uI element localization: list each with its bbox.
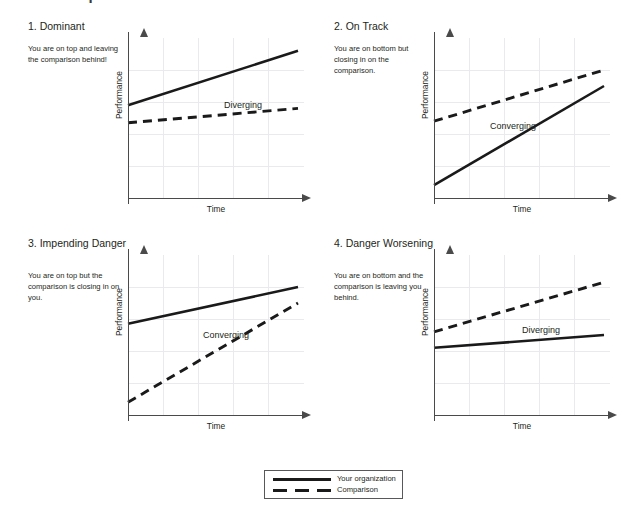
chart-annotation: Diverging (224, 100, 262, 110)
y-axis (128, 249, 129, 421)
panel-description: You are on bottom but closing in on the … (334, 44, 430, 76)
page-title: Four Comparison Situations (16, 0, 223, 3)
panel-danger-worsening: 4. Danger Worsening You are on bottom an… (320, 237, 625, 452)
y-axis-label: Performance (420, 52, 430, 138)
series-comparison (434, 282, 604, 332)
y-axis (128, 32, 129, 204)
panel-title: 3. Impending Danger (28, 237, 126, 249)
legend-label: Comparison (337, 484, 378, 496)
x-axis-arrow-icon (302, 194, 311, 202)
series-comparison (128, 108, 298, 122)
x-axis-arrow-icon (302, 411, 311, 419)
plot-area (434, 38, 610, 198)
chart-annotation: Converging (490, 121, 536, 131)
series-your-organization (434, 86, 604, 185)
chart-annotation: Diverging (522, 325, 560, 335)
series-lines (434, 255, 610, 415)
legend-solid-line-icon (273, 478, 331, 481)
panel-title: 2. On Track (334, 20, 388, 32)
series-your-organization (434, 335, 604, 348)
panel-impending-danger: 3. Impending Danger You are on top but t… (14, 237, 319, 452)
y-axis-label: Performance (420, 269, 430, 355)
panel-title: 1. Dominant (28, 20, 85, 32)
chart-on-track: Performance Time Converging (418, 32, 618, 227)
panel-on-track: 2. On Track You are on bottom but closin… (320, 20, 625, 235)
series-lines (434, 38, 610, 198)
panel-description: You are on bottom and the comparison is … (334, 271, 430, 303)
x-axis-label: Time (434, 204, 610, 214)
panel-description: You are on top and leaving the compariso… (28, 44, 124, 66)
y-axis-label: Performance (114, 52, 124, 138)
y-axis (434, 32, 435, 204)
x-axis (434, 198, 610, 199)
series-your-organization (128, 51, 298, 105)
legend-dashed-line-icon (273, 489, 331, 492)
y-axis (434, 249, 435, 421)
y-axis-arrow-icon (140, 28, 148, 37)
plot-area (128, 38, 304, 198)
x-axis (128, 415, 304, 416)
panel-title: 4. Danger Worsening (334, 237, 433, 249)
chart-legend: Your organization Comparison (264, 470, 403, 499)
y-axis-label: Performance (114, 269, 124, 355)
y-axis-arrow-icon (140, 245, 148, 254)
chart-impending-danger: Performance Time Converging (112, 249, 312, 444)
panel-description: You are on top but the comparison is clo… (28, 271, 124, 303)
plot-area (434, 255, 610, 415)
y-axis-arrow-icon (446, 245, 454, 254)
y-axis-arrow-icon (446, 28, 454, 37)
chart-dominant: Performance Time Diverging (112, 32, 312, 227)
series-comparison (434, 70, 604, 121)
x-axis (434, 415, 610, 416)
x-axis-label: Time (128, 421, 304, 431)
series-lines (128, 38, 304, 198)
x-axis (128, 198, 304, 199)
x-axis-label: Time (434, 421, 610, 431)
x-axis-label: Time (128, 204, 304, 214)
x-axis-arrow-icon (608, 194, 617, 202)
chart-annotation: Converging (203, 330, 249, 340)
x-axis-arrow-icon (608, 411, 617, 419)
chart-danger-worsening: Performance Time Diverging (418, 249, 618, 444)
panel-dominant: 1. Dominant You are on top and leaving t… (14, 20, 319, 235)
